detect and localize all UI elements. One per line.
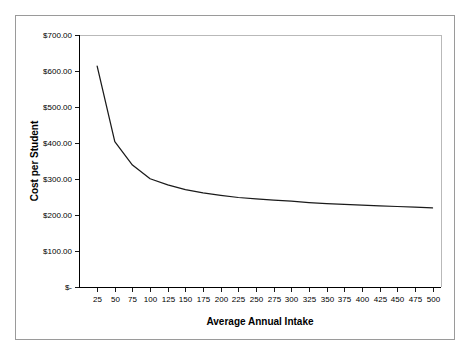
x-tick-label-275: 275 [268,295,282,304]
y-tick-label-200: $200.00 [43,211,72,220]
x-axis-ticks: 2550751001251501752002252502753003253503… [93,288,441,304]
y-tick-label-0: $- [65,283,72,292]
x-tick-label-100: 100 [144,295,158,304]
x-tick-label-475: 475 [409,295,423,304]
plot-area-border [79,35,441,287]
y-tick-label-700: $700.00 [43,31,72,40]
x-tick-label-375: 375 [338,295,352,304]
y-tick-label-300: $300.00 [43,175,72,184]
x-tick-label-50: 50 [111,295,120,304]
x-tick-label-350: 350 [321,295,335,304]
x-tick-label-75: 75 [128,295,137,304]
chart-figure: $700.00 $600.00 $500.00 $400.00 $300.00 … [0,0,472,355]
x-tick-label-325: 325 [303,295,317,304]
x-tick-label-450: 450 [391,295,405,304]
y-axis-ticks: $700.00 $600.00 $500.00 $400.00 $300.00 … [43,31,79,292]
x-tick-label-250: 250 [250,295,264,304]
y-tick-label-400: $400.00 [43,139,72,148]
x-tick-label-150: 150 [179,295,193,304]
x-tick-label-125: 125 [162,295,176,304]
series-line-cost-per-student [97,66,432,208]
y-tick-label-500: $500.00 [43,103,72,112]
x-tick-label-300: 300 [285,295,299,304]
chart-frame: $700.00 $600.00 $500.00 $400.00 $300.00 … [15,15,455,340]
x-axis-title: Average Annual Intake [206,316,314,327]
x-tick-label-25: 25 [93,295,102,304]
line-chart-plot: $700.00 $600.00 $500.00 $400.00 $300.00 … [16,16,454,339]
y-tick-label-100: $100.00 [43,247,72,256]
x-tick-label-200: 200 [215,295,229,304]
x-tick-label-400: 400 [356,295,370,304]
x-tick-label-175: 175 [197,295,211,304]
x-tick-label-225: 225 [232,295,246,304]
x-tick-label-500: 500 [427,295,441,304]
x-tick-label-425: 425 [374,295,388,304]
y-tick-label-600: $600.00 [43,67,72,76]
y-axis-title: Cost per Student [29,120,40,201]
